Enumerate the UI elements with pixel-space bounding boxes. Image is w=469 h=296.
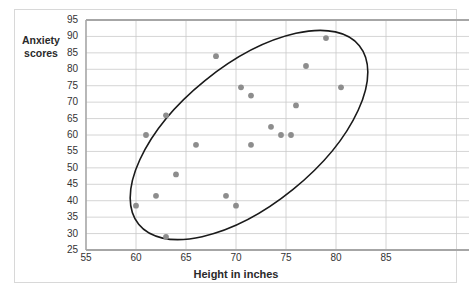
data-points: [133, 35, 344, 240]
scatter-plot-figure: Anxiety scores Height in inches 25303540…: [0, 0, 469, 296]
correlation-ellipse-annotation: [95, 0, 404, 279]
plot-canvas: [0, 0, 469, 296]
